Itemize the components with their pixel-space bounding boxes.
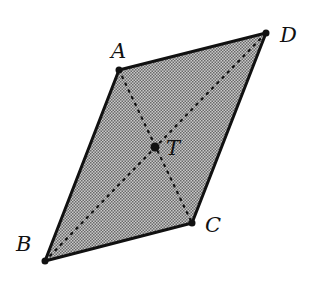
label-a: A <box>109 39 126 63</box>
label-c: C <box>205 213 221 237</box>
label-t: T <box>166 136 182 160</box>
label-b: B <box>15 232 31 256</box>
center-t-point <box>151 143 160 152</box>
label-d: D <box>279 23 297 47</box>
vertex-c-point <box>189 220 196 227</box>
vertex-d-point <box>263 30 270 37</box>
parallelogram-diagram: A D C B T <box>0 0 332 283</box>
vertex-b-point <box>42 258 49 265</box>
vertex-a-point <box>116 67 123 74</box>
